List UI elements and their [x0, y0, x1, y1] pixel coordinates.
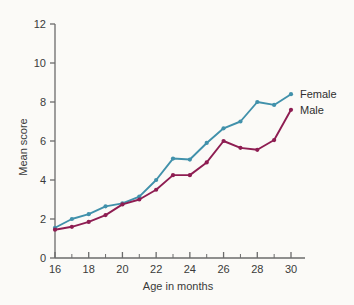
data-point	[154, 188, 158, 192]
y-tick-label: 0	[40, 252, 46, 264]
data-point	[255, 148, 259, 152]
y-tick-label: 12	[34, 18, 46, 30]
data-point	[238, 146, 242, 150]
data-point	[70, 225, 74, 229]
data-point	[289, 108, 293, 112]
data-point	[272, 103, 276, 107]
data-point	[87, 212, 91, 216]
x-tick-label: 30	[285, 263, 297, 275]
y-tick-label: 2	[40, 213, 46, 225]
data-point	[53, 228, 57, 232]
data-point	[188, 173, 192, 177]
x-tick-label: 28	[251, 263, 263, 275]
data-point	[120, 202, 124, 206]
data-point	[289, 92, 293, 96]
data-point	[70, 217, 74, 221]
data-point	[272, 138, 276, 142]
data-point	[188, 157, 192, 161]
data-point	[171, 173, 175, 177]
y-tick-label: 8	[40, 96, 46, 108]
x-tick-label: 26	[217, 263, 229, 275]
data-point	[205, 160, 209, 164]
line-chart: 024681012 1618202224262830 FemaleMale Me…	[0, 0, 354, 305]
y-axis-title: Mean score	[17, 118, 29, 175]
data-point	[154, 178, 158, 182]
data-point	[103, 204, 107, 208]
data-point	[238, 119, 242, 123]
x-tick-label: 16	[49, 263, 61, 275]
data-point	[87, 220, 91, 224]
data-point	[103, 213, 107, 217]
x-tick-label: 22	[150, 263, 162, 275]
chart-canvas: 024681012 1618202224262830 FemaleMale Me…	[0, 0, 354, 305]
chart-background	[0, 0, 354, 305]
x-tick-label: 24	[184, 263, 196, 275]
y-tick-label: 6	[40, 135, 46, 147]
data-point	[255, 100, 259, 104]
y-tick-label: 4	[40, 174, 46, 186]
data-point	[137, 197, 141, 201]
x-axis-title: Age in months	[143, 280, 214, 292]
data-point	[205, 141, 209, 145]
data-point	[221, 139, 225, 143]
series-label-female: Female	[300, 88, 337, 100]
series-label-male: Male	[300, 104, 324, 116]
x-tick-label: 18	[83, 263, 95, 275]
data-point	[171, 156, 175, 160]
y-tick-label: 10	[34, 57, 46, 69]
data-point	[221, 126, 225, 130]
x-tick-label: 20	[116, 263, 128, 275]
